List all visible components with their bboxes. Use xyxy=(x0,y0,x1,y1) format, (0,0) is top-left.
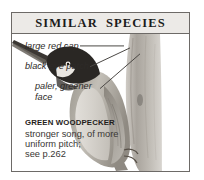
similar-species-panel: SIMILAR SPECIES xyxy=(11,12,190,172)
caption-note-line1: stronger song, of more xyxy=(25,129,143,139)
caption-block: GREEN WOODPECKER stronger song, of more … xyxy=(25,118,143,160)
page-title: SIMILAR SPECIES xyxy=(35,16,166,31)
annotation-paler-greener-face-line1: paler, greener xyxy=(35,81,115,92)
caption-note: stronger song, of more uniform pitch; se… xyxy=(25,129,143,160)
similar-species-figure: SIMILAR SPECIES xyxy=(0,0,204,180)
annotation-black-eye-patch: black eye patch xyxy=(25,61,89,72)
annotation-paler-greener-face-line2: face xyxy=(35,92,115,103)
panel-body: large red cap black eye patch paler, gre… xyxy=(12,34,189,171)
annotation-large-red-cap: large red cap xyxy=(25,41,79,52)
annotation-paler-greener-face: paler, greener face xyxy=(35,81,115,103)
caption-note-line2: uniform pitch; xyxy=(25,139,143,149)
caption-note-line3: see p.262 xyxy=(25,149,143,159)
caption-species-name: GREEN WOODPECKER xyxy=(25,118,143,128)
panel-header: SIMILAR SPECIES xyxy=(12,13,189,34)
